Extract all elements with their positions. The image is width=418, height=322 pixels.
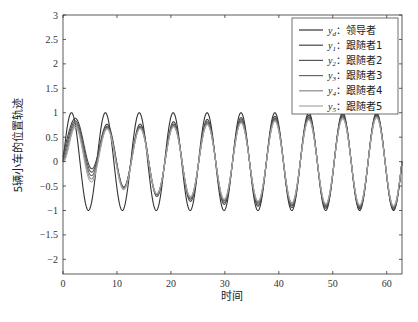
legend-label: y1：跟随者1 — [327, 39, 382, 53]
x-tick-label: 30 — [220, 278, 230, 289]
legend: yd：领导者y1：跟随者1y2：跟随者2y3：跟随者3y4：跟随者4y5：跟随者… — [292, 18, 398, 114]
y-tick-label: 3 — [53, 10, 58, 21]
y-tick-label: −2 — [47, 254, 58, 265]
legend-label: y2：跟随者2 — [327, 54, 382, 68]
trajectory-chart: 0102030405060 −2−1.5−1−0.500.511.522.53 … — [0, 0, 418, 322]
y-tick-label: −1.5 — [40, 229, 58, 240]
x-tick-label: 50 — [328, 278, 338, 289]
x-tick-label: 60 — [382, 278, 392, 289]
y-tick-label: 1.5 — [46, 83, 59, 94]
y-tick-label: 0.5 — [46, 132, 59, 143]
y-axis-title: 5辆小车的位置轨迹 — [11, 98, 25, 193]
x-axis-title: 时间 — [221, 290, 243, 303]
y-tick-label: 2.5 — [46, 34, 59, 45]
y-tick-label: −0.5 — [40, 181, 58, 192]
legend-label: y5：跟随者5 — [327, 100, 382, 114]
x-tick-label: 0 — [61, 278, 66, 289]
y-tick-label: 0 — [53, 156, 58, 167]
x-tick-label: 40 — [274, 278, 284, 289]
y-tick-label: −1 — [47, 205, 58, 216]
legend-label: y3：跟随者3 — [327, 69, 382, 83]
y-tick-label: 2 — [53, 58, 58, 69]
x-tick-label: 10 — [112, 278, 122, 289]
legend-label: y4：跟随者4 — [327, 84, 382, 98]
x-tick-label: 20 — [166, 278, 176, 289]
y-tick-label: 1 — [53, 107, 58, 118]
